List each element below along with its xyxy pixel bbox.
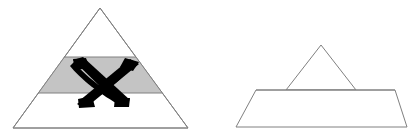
- apex-triangle-outline: [286, 45, 356, 90]
- cross-stroke-tail-bottom-right: [114, 98, 130, 107]
- figure-root: [0, 0, 413, 136]
- right-figure-group: [236, 45, 407, 127]
- left-figure-group: [13, 8, 188, 128]
- base-trapezoid-outline: [236, 90, 407, 127]
- figure-canvas: [0, 0, 413, 136]
